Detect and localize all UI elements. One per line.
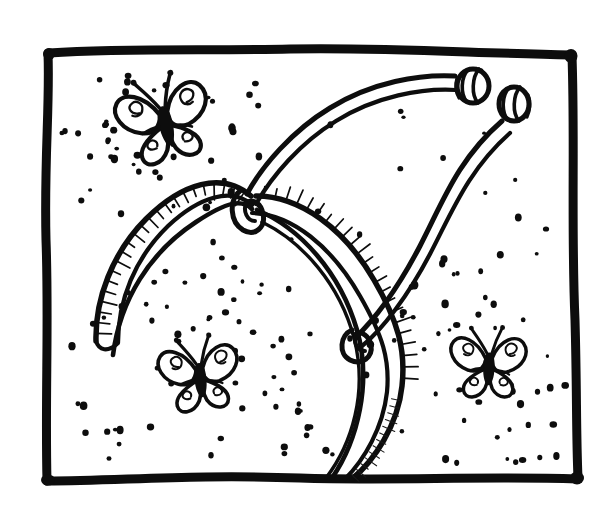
sparkle-dot <box>144 302 149 307</box>
sparkle-dot <box>546 354 549 358</box>
sparkle-dot <box>535 389 540 395</box>
sparkle-dot <box>271 375 276 379</box>
band-hatch-mark <box>403 378 418 379</box>
sparkle-dot <box>422 347 427 351</box>
sparkle-dot <box>200 273 206 279</box>
sparkle-dot <box>239 405 245 411</box>
sparkle-dot <box>256 152 263 160</box>
sparkle-dot <box>307 424 313 429</box>
sparkle-dot <box>237 319 242 324</box>
sparkle-dot <box>515 213 522 221</box>
sparkle-dot <box>398 109 404 114</box>
band-hatch-mark <box>96 333 112 334</box>
sparkle-dot <box>149 317 154 323</box>
sparkle-dot <box>152 88 157 92</box>
sparkle-dot <box>455 271 459 276</box>
sparkle-dot <box>537 455 542 460</box>
sparkle-dot <box>434 391 438 396</box>
sparkle-dot <box>273 404 278 410</box>
sparkle-dot <box>561 382 569 389</box>
sparkle-dot <box>439 260 445 268</box>
sparkle-dot <box>257 291 262 295</box>
sparkle-dot <box>114 147 119 151</box>
sparkle-dot <box>307 332 312 337</box>
sparkle-dot <box>259 283 263 287</box>
sparkle-dot <box>97 77 103 82</box>
sparkle-dot <box>448 328 452 331</box>
sparkle-dot <box>553 452 559 460</box>
sparkle-dot <box>483 295 488 300</box>
line-art-scene <box>0 0 612 513</box>
sparkle-dot <box>263 390 268 396</box>
sparkle-dot <box>400 309 407 315</box>
sparkle-dot <box>250 330 257 335</box>
sparkle-dot <box>521 317 526 322</box>
sparkle-dot <box>88 188 92 191</box>
sparkle-dot <box>497 251 504 259</box>
sparkle-dot <box>82 430 88 437</box>
illustration-canvas: Butterfly antenna headband with sparkles… <box>0 0 612 513</box>
sparkle-dot <box>132 163 136 167</box>
sparkle-dot <box>454 460 459 466</box>
sparkle-dot <box>392 338 397 343</box>
sparkle-dot <box>453 322 460 328</box>
sparkle-dot <box>543 226 549 231</box>
sparkle-dot <box>495 435 500 440</box>
sparkle-dot <box>550 421 558 428</box>
sparkle-dot <box>231 265 237 270</box>
sparkle-dot <box>436 331 440 336</box>
sparkle-dot <box>241 279 245 284</box>
sparkle-dot <box>210 239 216 246</box>
sparkle-dot <box>87 153 93 159</box>
sparkle-dot <box>208 452 213 458</box>
sparkle-dot <box>203 203 211 211</box>
sparkle-dot <box>519 457 526 463</box>
sparkle-dot <box>59 131 64 136</box>
sparkle-dot <box>281 443 288 450</box>
sparkle-dot <box>304 432 309 438</box>
sparkle-dot <box>483 191 487 195</box>
sparkle-dot <box>440 155 446 161</box>
sparkle-dot <box>330 452 335 456</box>
sparkle-dot <box>255 103 261 109</box>
sparkle-dot <box>507 427 511 432</box>
sparkle-dot <box>117 442 122 447</box>
sparkle-dot <box>535 252 539 255</box>
sparkle-dot <box>493 326 497 331</box>
sparkle-dot <box>322 447 329 454</box>
sparkle-dot <box>278 336 284 343</box>
sparkle-dot <box>291 370 297 376</box>
sparkle-dot <box>117 426 124 435</box>
sparkle-dot <box>547 384 554 392</box>
sparkle-dot <box>102 315 107 319</box>
sparkle-dot <box>475 312 481 318</box>
sparkle-dot <box>270 344 275 349</box>
sparkle-dot <box>513 459 518 465</box>
sparkle-dot <box>172 204 176 209</box>
sparkle-dot <box>491 301 497 308</box>
sparkle-dot <box>505 457 509 461</box>
sparkle-dot <box>209 158 214 163</box>
sparkle-dot <box>136 168 142 174</box>
sparkle-dot <box>110 127 117 134</box>
sparkle-dot <box>400 429 405 433</box>
sparkle-dot <box>125 73 132 79</box>
sparkle-dot <box>107 456 112 460</box>
sparkle-dot <box>246 92 253 99</box>
sparkle-dot <box>517 400 524 408</box>
sparkle-dot <box>80 401 88 410</box>
sparkle-dot <box>104 119 109 123</box>
sparkle-dot <box>441 300 448 309</box>
sparkle-dot <box>411 315 416 319</box>
sparkle-dot <box>222 309 229 315</box>
sparkle-dot <box>238 355 245 362</box>
sparkle-dot <box>78 198 84 204</box>
sparkle-dot <box>397 166 403 171</box>
sparkle-dot <box>118 210 124 217</box>
sparkle-dot <box>219 256 225 261</box>
sparkle-dot <box>285 353 292 360</box>
sparkle-dot <box>252 81 259 87</box>
sparkle-dot <box>147 424 154 431</box>
sparkle-dot <box>75 130 81 136</box>
sparkle-dot <box>218 288 225 296</box>
